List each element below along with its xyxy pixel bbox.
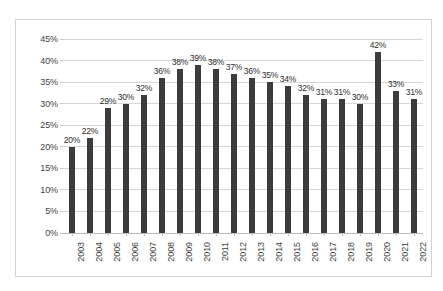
bar-slot: 36% — [153, 39, 171, 233]
x-axis-tick-label: 2017 — [328, 242, 338, 262]
bar-slot: 31% — [333, 39, 351, 233]
x-axis-tick-label: 2010 — [202, 242, 212, 262]
x-axis-tick-mark — [162, 233, 163, 236]
bar-value-label: 36% — [244, 66, 260, 76]
y-axis-tick-label: 20% — [40, 142, 58, 152]
x-axis-tick-label: 2008 — [166, 242, 176, 262]
bar-slot: 34% — [279, 39, 297, 233]
bar-value-label: 42% — [370, 40, 386, 50]
x-axis-tick-label: 2021 — [400, 242, 410, 262]
bar-value-label: 22% — [82, 126, 98, 136]
x-axis-tick-label: 2015 — [292, 242, 302, 262]
x-axis-tick-label: 2022 — [418, 242, 428, 262]
bar[interactable] — [411, 99, 417, 233]
bar[interactable] — [357, 104, 363, 233]
bar-slot: 42% — [369, 39, 387, 233]
x-axis-tick-label: 2005 — [112, 242, 122, 262]
x-axis-tick-mark — [396, 233, 397, 236]
x-axis-tick-mark — [234, 233, 235, 236]
bar[interactable] — [195, 65, 201, 233]
bar-slot: 30% — [351, 39, 369, 233]
bar-value-label: 32% — [136, 83, 152, 93]
y-axis-tick-label: 0% — [45, 228, 58, 238]
chart-screenshot: 0%5%10%15%20%25%30%35%40%45% 20%22%29%30… — [0, 0, 443, 291]
bar[interactable] — [213, 69, 219, 233]
x-axis-tick-label: 2018 — [346, 242, 356, 262]
bar-value-label: 39% — [190, 53, 206, 63]
bar-slot: 39% — [189, 39, 207, 233]
y-axis-tick-label: 15% — [40, 163, 58, 173]
y-axis-tick-label: 40% — [40, 56, 58, 66]
bar[interactable] — [303, 95, 309, 233]
bar[interactable] — [105, 108, 111, 233]
bar-slot: 30% — [117, 39, 135, 233]
y-axis-tick-label: 25% — [40, 120, 58, 130]
x-axis-tick-mark — [126, 233, 127, 236]
bar-value-label: 31% — [334, 87, 350, 97]
bar-value-label: 32% — [298, 83, 314, 93]
x-axis-tick-mark — [342, 233, 343, 236]
x-axis-tick-label: 2009 — [184, 242, 194, 262]
bar[interactable] — [69, 147, 75, 233]
bar-value-label: 36% — [154, 66, 170, 76]
bar-slot: 33% — [387, 39, 405, 233]
bar[interactable] — [285, 86, 291, 233]
x-axis-tick-label: 2020 — [382, 242, 392, 262]
bar-value-label: 38% — [208, 57, 224, 67]
x-axis-tick-mark — [216, 233, 217, 236]
bar[interactable] — [339, 99, 345, 233]
bar-slot: 31% — [405, 39, 423, 233]
x-axis-tick-mark — [324, 233, 325, 236]
bar-slot: 37% — [225, 39, 243, 233]
bar-value-label: 31% — [316, 87, 332, 97]
bar-value-label: 20% — [64, 135, 80, 145]
bar-value-label: 38% — [172, 57, 188, 67]
bar[interactable] — [159, 78, 165, 233]
x-axis-tick-mark — [198, 233, 199, 236]
x-axis-tick-mark — [90, 233, 91, 236]
bar[interactable] — [249, 78, 255, 233]
x-axis-tick-mark — [252, 233, 253, 236]
plot-area: 0%5%10%15%20%25%30%35%40%45% 20%22%29%30… — [63, 39, 423, 233]
x-axis-tick-label: 2019 — [364, 242, 374, 262]
bar-value-label: 34% — [280, 74, 296, 84]
bar[interactable] — [87, 138, 93, 233]
bar[interactable] — [123, 104, 129, 233]
x-axis-tick-mark — [288, 233, 289, 236]
x-axis-tick-mark — [72, 233, 73, 236]
bar[interactable] — [141, 95, 147, 233]
y-axis-tick-label: 30% — [40, 99, 58, 109]
x-axis-tick-label: 2003 — [76, 242, 86, 262]
x-axis-tick-label: 2014 — [274, 242, 284, 262]
x-axis-tick-mark — [270, 233, 271, 236]
bar-slot: 38% — [171, 39, 189, 233]
x-axis-tick-mark — [414, 233, 415, 236]
bar[interactable] — [231, 74, 237, 234]
chart-frame: 0%5%10%15%20%25%30%35%40%45% 20%22%29%30… — [15, 19, 432, 277]
bar-value-label: 30% — [118, 92, 134, 102]
bar[interactable] — [267, 82, 273, 233]
x-axis-tick-mark — [360, 233, 361, 236]
bar-slot: 20% — [63, 39, 81, 233]
bar-slot: 35% — [261, 39, 279, 233]
x-axis-tick-label: 2011 — [220, 242, 230, 261]
bar-slot: 32% — [135, 39, 153, 233]
x-axis-tick-labels: 2003200420052006200720082009201020112012… — [63, 233, 423, 277]
x-axis-tick-label: 2004 — [94, 242, 104, 262]
bar-value-label: 31% — [406, 87, 422, 97]
x-axis-tick-mark — [144, 233, 145, 236]
bar-slot: 32% — [297, 39, 315, 233]
bar-value-label: 35% — [262, 70, 278, 80]
y-axis-tick-label: 35% — [40, 77, 58, 87]
bar-value-label: 29% — [100, 96, 116, 106]
bar[interactable] — [375, 52, 381, 233]
bar[interactable] — [177, 69, 183, 233]
bar-value-label: 30% — [352, 92, 368, 102]
bar[interactable] — [393, 91, 399, 233]
bar-slot: 36% — [243, 39, 261, 233]
bar[interactable] — [321, 99, 327, 233]
bar-slot: 22% — [81, 39, 99, 233]
x-axis-tick-label: 2016 — [310, 242, 320, 262]
y-axis-tick-label: 10% — [40, 185, 58, 195]
y-axis-tick-label: 5% — [45, 206, 58, 216]
